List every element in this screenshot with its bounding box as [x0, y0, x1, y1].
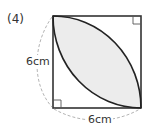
- side-length-bottom: 6cm: [87, 114, 113, 125]
- right-angle-mark-top-right: [133, 16, 141, 24]
- problem-number: (4): [7, 13, 24, 25]
- right-angle-mark-bottom-left: [53, 100, 61, 108]
- shaded-lens: [53, 16, 141, 108]
- side-length-left: 6cm: [26, 55, 50, 68]
